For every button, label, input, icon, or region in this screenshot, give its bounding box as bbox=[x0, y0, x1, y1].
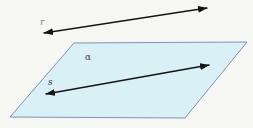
geometry-diagram: r α s bbox=[0, 0, 253, 128]
plane-alpha-label: α bbox=[85, 52, 91, 62]
line-r-label: r bbox=[40, 17, 45, 27]
line-s-label: s bbox=[48, 77, 53, 87]
